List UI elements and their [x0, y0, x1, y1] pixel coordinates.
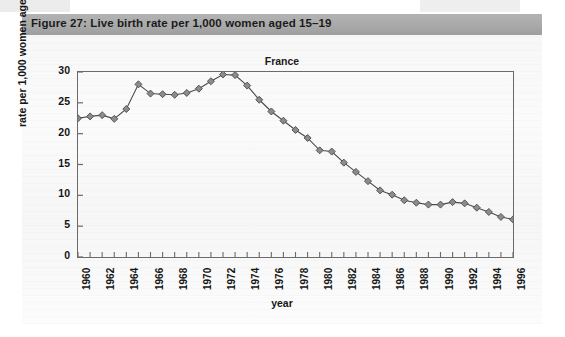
x-tick-label: 1984	[371, 268, 382, 290]
x-tick-label: 1980	[323, 268, 334, 290]
data-point-marker	[183, 89, 190, 96]
data-point-marker	[461, 200, 468, 207]
x-tick-label: 1968	[178, 268, 189, 290]
x-tick-label: 1972	[226, 268, 237, 290]
data-point-marker	[413, 199, 420, 206]
data-point-marker	[401, 197, 408, 204]
data-point-marker	[207, 78, 214, 85]
x-tick-label: 1970	[202, 268, 213, 290]
x-tick-label: 1966	[154, 268, 165, 290]
data-point-marker	[485, 208, 492, 215]
data-line-series-france	[78, 74, 513, 219]
scan-artifact-top	[0, 0, 565, 12]
x-axis-title: year	[22, 297, 542, 309]
data-point-marker	[437, 201, 444, 208]
data-point-marker	[78, 115, 82, 122]
x-tick-label: 1974	[250, 268, 261, 290]
y-axis-title: rate per 1,000 women aged 15–19	[16, 0, 28, 127]
x-tick-label: 1986	[395, 268, 406, 290]
data-point-marker	[510, 216, 514, 223]
chart-title: France	[22, 55, 542, 67]
y-tick-label: 0	[44, 249, 70, 261]
data-point-marker	[497, 213, 504, 220]
x-tick-label: 1988	[419, 268, 430, 290]
figure-container: Figure 27: Live birth rate per 1,000 wom…	[22, 14, 542, 324]
y-tick-label: 5	[44, 218, 70, 230]
figure-body: France rate per 1,000 women aged 15–19 0…	[22, 35, 542, 324]
data-point-marker	[195, 85, 202, 92]
y-tick-label: 15	[44, 157, 70, 169]
x-axis-ticks	[78, 252, 513, 257]
y-tick-label: 25	[44, 95, 70, 107]
x-tick-label: 1990	[444, 268, 455, 290]
x-tick-label: 1964	[129, 268, 140, 290]
x-tick-label: 1962	[105, 268, 116, 290]
y-tick-label: 20	[44, 126, 70, 138]
x-tick-label: 1996	[516, 268, 527, 290]
y-tick-label: 10	[44, 187, 70, 199]
x-tick-label: 1976	[274, 268, 285, 290]
x-tick-label: 1960	[81, 268, 92, 290]
x-tick-label: 1978	[299, 268, 310, 290]
chart-plot-svg	[78, 72, 513, 257]
data-point-marker	[425, 201, 432, 208]
plot-area	[77, 71, 514, 258]
figure-caption-bar: Figure 27: Live birth rate per 1,000 wom…	[22, 14, 542, 35]
x-tick-label: 1994	[492, 268, 503, 290]
data-point-marker	[87, 113, 94, 120]
y-axis-ticks	[78, 72, 83, 257]
figure-caption: Figure 27: Live birth rate per 1,000 wom…	[31, 17, 332, 29]
data-point-marker	[220, 72, 227, 78]
data-markers-series-france	[78, 72, 513, 223]
x-tick-label: 1982	[347, 268, 358, 290]
data-point-marker	[99, 112, 106, 119]
data-point-marker	[473, 204, 480, 211]
data-point-marker	[171, 91, 178, 98]
data-point-marker	[159, 91, 166, 98]
y-tick-label: 30	[44, 64, 70, 76]
data-point-marker	[449, 199, 456, 206]
data-point-marker	[389, 191, 396, 198]
x-tick-label: 1992	[468, 268, 479, 290]
